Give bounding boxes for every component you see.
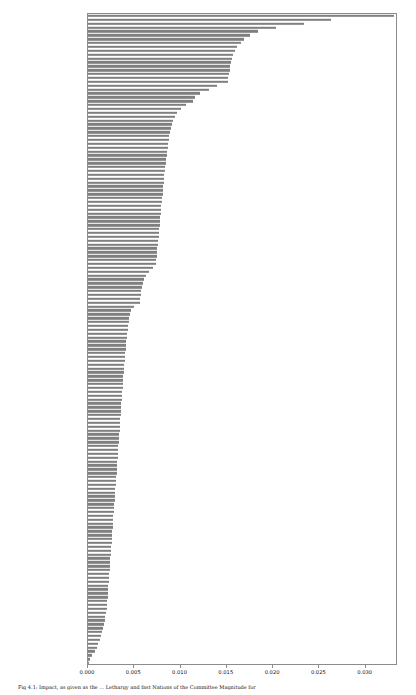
- x-axis-tick-mark: [87, 665, 88, 668]
- x-axis-tick-mark: [365, 665, 366, 668]
- figure-caption: Fig 4.1: Impact, as given as the ... Let…: [18, 684, 404, 690]
- x-axis-tick-mark: [318, 665, 319, 668]
- y-axis-labels: United StatesAustraliaCanadaTaiwanIsrael…: [0, 13, 416, 665]
- figure: United StatesAustraliaCanadaTaiwanIsrael…: [0, 0, 416, 695]
- x-axis-tick-label: 0.000: [80, 669, 95, 675]
- x-axis-tick-mark: [133, 665, 134, 668]
- x-axis-tick-mark: [226, 665, 227, 668]
- x-axis-tick-label: 0.005: [126, 669, 141, 675]
- x-axis-tick-label: 0.030: [357, 669, 372, 675]
- x-axis-tick-label: 0.010: [172, 669, 187, 675]
- x-axis-tick-mark: [180, 665, 181, 668]
- x-axis: 0.0000.0050.0100.0150.0200.0250.030: [0, 665, 416, 679]
- x-axis-tick-label: 0.020: [265, 669, 280, 675]
- x-axis-tick-label: 0.015: [218, 669, 233, 675]
- x-axis-tick-mark: [272, 665, 273, 668]
- x-axis-tick-label: 0.025: [311, 669, 326, 675]
